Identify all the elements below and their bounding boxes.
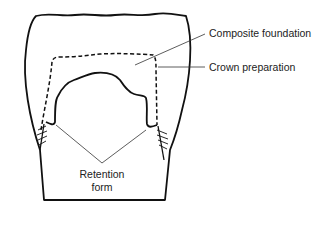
leader-composite-foundation — [135, 34, 205, 65]
composite-core-outline — [46, 73, 157, 127]
hatching-right — [157, 126, 168, 160]
label-retention: Retention — [72, 168, 132, 180]
label-composite-foundation: Composite foundation — [209, 27, 311, 39]
leader-retention-left — [56, 125, 102, 163]
label-crown-preparation: Crown preparation — [209, 61, 295, 73]
label-form: form — [72, 181, 132, 193]
crown-preparation-outline — [41, 54, 157, 130]
leader-retention-right — [102, 130, 146, 163]
